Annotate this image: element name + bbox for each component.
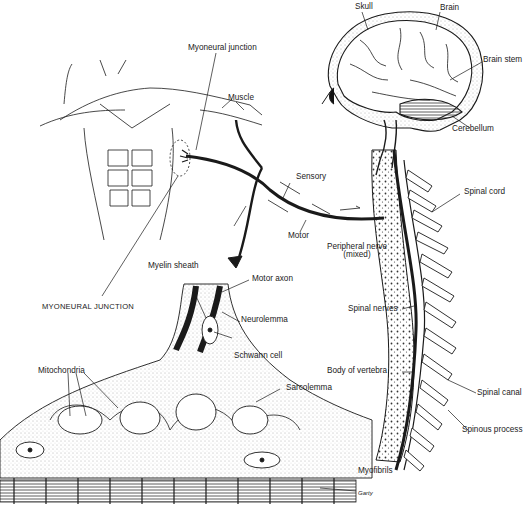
- myoneural-junction-detail: [0, 284, 372, 478]
- label-motor: Motor: [288, 232, 309, 240]
- label-brain-stem: Brain stem: [483, 56, 522, 64]
- label-spinal-nerves: Spinal nerves: [348, 305, 398, 313]
- label-peripheral-nerve-line2: (mixed): [343, 250, 370, 259]
- label-peripheral-nerve: Peripheral nerve (mixed): [322, 243, 392, 259]
- head-brain: [322, 12, 483, 175]
- label-spinal-cord: Spinal cord: [464, 188, 505, 196]
- torso: [40, 60, 262, 240]
- label-myoneural-junction-caps: MYONEURAL JUNCTION: [42, 303, 134, 311]
- label-sensory: Sensory: [296, 173, 326, 181]
- label-sarcolemma: Sarcolemma: [286, 384, 332, 392]
- label-brain: Brain: [440, 4, 459, 12]
- label-neurolemma: Neurolemma: [241, 316, 288, 324]
- label-body-of-vertebra: Body of vertebra: [327, 367, 387, 375]
- label-skull: Skull: [355, 3, 373, 11]
- anatomy-figure: Skull Brain Brain stem Cerebellum Myoneu…: [0, 0, 524, 511]
- myofibrils-strip: [0, 478, 356, 504]
- label-motor-axon: Motor axon: [252, 275, 293, 283]
- label-mitochondria: Mitochondria: [38, 367, 85, 375]
- label-myofibrils: Myofibrils: [358, 467, 393, 475]
- illustration: [0, 0, 524, 511]
- label-muscle: Muscle: [228, 94, 254, 102]
- label-cerebellum: Cerebellum: [452, 125, 494, 133]
- label-spinal-canal: Spinal canal: [477, 389, 522, 397]
- artist-signature: Garty: [358, 490, 373, 496]
- label-schwann-cell: Schwann cell: [234, 352, 282, 360]
- label-myoneural-junction: Myoneural junction: [188, 44, 257, 52]
- label-spinous-process: Spinous process: [462, 426, 523, 434]
- label-myelin-sheath: Myelin sheath: [148, 262, 199, 270]
